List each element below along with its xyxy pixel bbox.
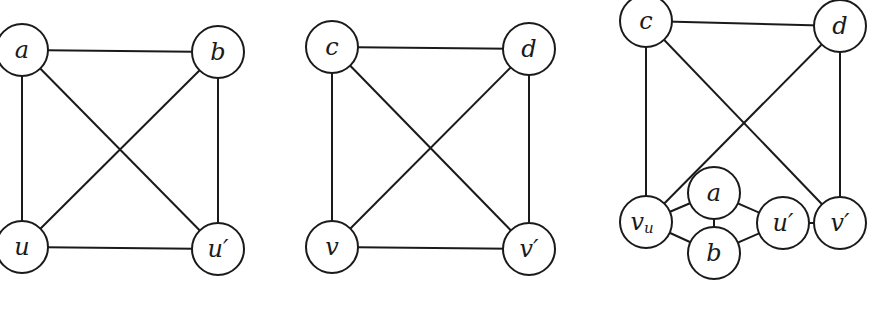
graph-3-nodes: cdvuabu′v′ <box>620 0 866 279</box>
graph-2-edges <box>332 47 529 249</box>
node-label: d <box>521 35 536 63</box>
node-label: v′ <box>519 235 539 263</box>
edge-a-b <box>22 50 218 52</box>
node-label: d <box>832 12 847 40</box>
edge-v-v_prime <box>332 247 529 249</box>
node-label: a <box>707 179 721 207</box>
node-label: c <box>325 33 338 61</box>
node-v_prime: v′ <box>503 223 555 275</box>
node-label: c <box>639 7 652 35</box>
node-c: c <box>306 21 358 73</box>
node-subscript: u <box>644 219 654 237</box>
node-c: c <box>620 0 672 47</box>
node-label: u <box>14 233 29 261</box>
graph-3-edges <box>646 21 840 253</box>
node-v_prime: v′ <box>814 197 866 249</box>
node-label: v <box>325 233 339 261</box>
node-u: u <box>0 221 48 273</box>
graph-1-edges <box>22 50 218 249</box>
graph-1-nodes: abuu′ <box>0 24 244 275</box>
graph-diagram: abuu′cdvv′cdvuabu′v′ <box>0 0 870 313</box>
node-v_u: vu <box>620 196 672 248</box>
node-u_prime: u′ <box>192 223 244 275</box>
node-label: v′ <box>830 209 850 237</box>
node-b: b <box>688 227 740 279</box>
node-v: v <box>306 221 358 273</box>
node-a: a <box>0 24 48 76</box>
edge-u-u_prime <box>22 247 218 249</box>
node-a: a <box>688 167 740 219</box>
node-label: u′ <box>773 209 794 237</box>
node-label: b <box>706 239 721 267</box>
node-label: u′ <box>208 235 229 263</box>
node-label: a <box>15 36 29 64</box>
node-label: b <box>210 38 225 66</box>
node-d: d <box>814 0 866 52</box>
node-d: d <box>503 23 555 75</box>
node-b: b <box>192 26 244 78</box>
node-u_prime: u′ <box>757 197 809 249</box>
edge-c-d <box>332 47 529 49</box>
edge-c-d <box>646 21 840 26</box>
